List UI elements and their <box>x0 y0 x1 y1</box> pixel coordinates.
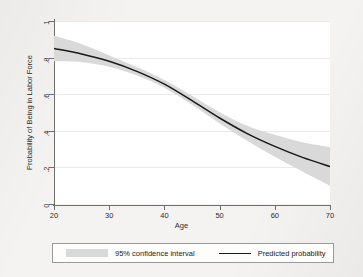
x-axis-tick <box>275 206 276 210</box>
legend-item-confidence-interval: 95% confidence interval <box>66 249 195 258</box>
legend-band-swatch <box>66 249 108 257</box>
x-axis-title-text: Age <box>175 221 188 230</box>
legend-item-predicted-probability: Predicted probability <box>219 249 326 258</box>
x-axis-tick <box>164 206 165 210</box>
y-axis-tick-label: .2 <box>42 167 51 183</box>
figure-chart: 0.2.4.6.81 203040506070 Probability of B… <box>0 0 363 277</box>
x-axis-tick-label: 50 <box>208 211 232 220</box>
x-axis-tick <box>54 206 55 210</box>
x-axis-tick <box>330 206 331 210</box>
y-axis-title-text: Probability of Being in Labor Force <box>26 55 35 170</box>
legend-label-confidence-interval: 95% confidence interval <box>115 249 195 258</box>
x-axis-tick-label: 70 <box>318 211 342 220</box>
page-background: 0.2.4.6.81 203040506070 Probability of B… <box>0 0 363 277</box>
x-axis-tick-label: 40 <box>152 211 176 220</box>
chart-plot <box>54 21 330 204</box>
y-axis-tick-label: .8 <box>42 57 51 73</box>
legend-label-predicted-probability: Predicted probability <box>258 249 326 258</box>
y-axis-tick-label: 1 <box>42 21 51 37</box>
x-axis-title: Age <box>0 221 363 230</box>
y-axis-tick-label: .4 <box>42 130 51 146</box>
x-axis-tick-label: 20 <box>42 211 66 220</box>
chart-legend: 95% confidence interval Predicted probab… <box>52 243 334 263</box>
confidence-band <box>54 36 330 186</box>
x-axis-tick <box>109 206 110 210</box>
y-axis-title: Probability of Being in Labor Force <box>24 21 36 204</box>
x-axis-line <box>53 205 331 206</box>
x-axis-tick-label: 60 <box>263 211 287 220</box>
y-axis-tick-label: .6 <box>42 94 51 110</box>
legend-line-swatch <box>219 253 251 254</box>
x-axis-tick <box>220 206 221 210</box>
x-axis-tick-label: 30 <box>97 211 121 220</box>
